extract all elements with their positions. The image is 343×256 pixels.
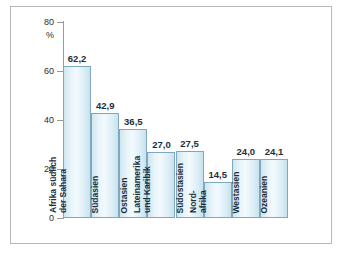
bar-category-label-text: Lateinamerika und Karibik: [133, 156, 152, 213]
bar-category-label-text: Nord- afrika: [189, 190, 208, 213]
bar-category-label-text: Westasien: [232, 171, 242, 213]
y-axis-tick-label: 0: [0, 212, 62, 224]
bar-group: Nord- afrika14,5: [204, 22, 232, 218]
bar-category-label-text: Ozeanien: [260, 175, 270, 213]
bar-category-label-text: Südasien: [91, 175, 101, 213]
bar-group: Afrika südlich der Sahara62,2: [63, 22, 91, 218]
y-axis-unit-label: %: [0, 30, 54, 40]
bar[interactable]: Lateinamerika und Karibik: [147, 152, 175, 218]
bar-category-label-text: Afrika südlich der Sahara: [49, 157, 68, 213]
bar-group: Lateinamerika und Karibik27,0: [147, 22, 175, 218]
y-axis-tick-label: 60: [0, 65, 62, 77]
bar-category-label-text: Südostasien: [175, 162, 185, 213]
x-axis-baseline: [63, 218, 64, 219]
bar[interactable]: Westasien: [232, 159, 260, 218]
bar[interactable]: Ozeanien: [260, 159, 288, 218]
bar[interactable]: Südasien: [91, 113, 119, 218]
bar-group: Südostasien27,5: [176, 22, 204, 218]
y-axis-tick-label: 80: [0, 16, 62, 28]
bar-group: Westasien24,0: [232, 22, 260, 218]
bar-group: Ozeanien24,1: [260, 22, 288, 218]
bars-layer: Afrika südlich der Sahara62,2Südasien42,…: [63, 22, 288, 218]
bar[interactable]: Nord- afrika: [204, 182, 232, 218]
bar[interactable]: Afrika südlich der Sahara: [63, 66, 91, 218]
bar-value-label: 24,1: [254, 146, 294, 157]
bar-category-label-text: Ostasien: [119, 177, 129, 213]
y-axis-tick-label: 40: [0, 114, 62, 126]
bar-chart-figure: 020406080 % Afrika südlich der Sahara62,…: [0, 0, 343, 256]
